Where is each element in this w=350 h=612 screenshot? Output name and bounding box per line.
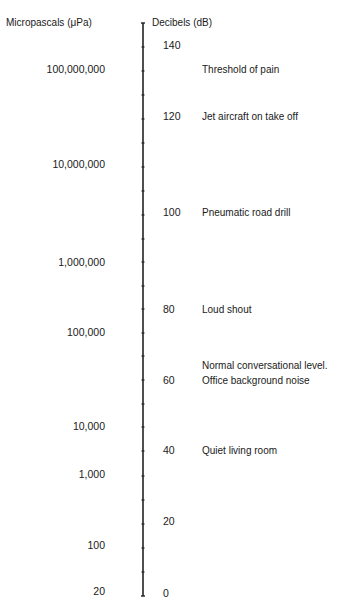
decibel-tick-label: 120 <box>163 110 181 122</box>
micropascal-tick-label: 10,000,000 <box>0 158 105 170</box>
sound-source-annotation: Pneumatic road drill <box>202 206 290 220</box>
decibel-tick-label: 20 <box>163 515 175 527</box>
sound-source-annotation: Quiet living room <box>202 444 277 458</box>
sound-source-annotation: Normal conversational level. <box>202 359 328 373</box>
scale-axis <box>134 0 154 612</box>
micropascal-tick-label: 1,000 <box>0 468 105 480</box>
micropascal-tick-label: 20 <box>0 585 105 597</box>
sound-source-annotation: Jet aircraft on take off <box>202 110 298 124</box>
decibels-axis-label: Decibels (dB) <box>152 17 212 28</box>
micropascal-tick-label: 100,000,000 <box>0 63 105 75</box>
decibel-tick-label: 100 <box>163 206 181 218</box>
micropascal-tick-label: 10,000 <box>0 420 105 432</box>
decibel-tick-label: 140 <box>163 39 181 51</box>
decibel-tick-label: 40 <box>163 444 175 456</box>
sound-source-annotation: Loud shout <box>202 303 252 317</box>
sound-source-annotation: Threshold of pain <box>202 63 279 77</box>
decibel-tick-label: 0 <box>163 587 169 599</box>
sound-source-annotation: Office background noise <box>202 374 310 388</box>
micropascal-tick-label: 100 <box>0 539 105 551</box>
micropascals-axis-label: Micropascals (μPa) <box>6 17 92 28</box>
decibel-tick-label: 60 <box>163 374 175 386</box>
micropascal-tick-label: 100,000 <box>0 326 105 338</box>
decibel-tick-label: 80 <box>163 303 175 315</box>
micropascal-tick-label: 1,000,000 <box>0 256 105 268</box>
